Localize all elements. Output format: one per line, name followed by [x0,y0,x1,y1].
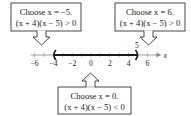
callout-left-line2: (x + 4)(x − 5) > 0 [16,18,76,28]
tick-label: 4 [127,59,131,68]
callout-left-line1: Choose x = −5. [20,7,73,17]
callout-left-arrow-icon [33,31,50,45]
tick-label: 0 [89,59,93,68]
callout-middle-arrow-icon [82,73,99,87]
axis-variable-label: x [163,51,168,60]
number-line-axis: 5−6−4−20246x [31,41,168,68]
tick-label: 6 [146,59,150,68]
callout-middle: Choose x = 0. (x + 4)(x − 5) < 0 [58,73,131,114]
callout-left: Choose x = −5. (x + 4)(x − 5) > 0 [11,3,81,45]
callout-right-line1: Choose x = 6. [126,7,174,17]
tick-label: −4 [49,59,57,68]
callout-right: Choose x = 6. (x + 4)(x − 5) > 0 [115,3,185,45]
callout-middle-line1: Choose x = 0. [71,91,119,101]
interval-endpoint-label: 5 [135,41,139,50]
callout-right-arrow-icon [140,31,157,45]
tick-label: 2 [108,59,112,68]
callout-middle-line2: (x + 4)(x − 5) < 0 [64,102,124,112]
tick-label: −2 [68,59,76,68]
number-line-diagram: Choose x = −5. (x + 4)(x − 5) > 0 Choose… [0,0,191,116]
callout-right-line2: (x + 4)(x − 5) > 0 [120,18,180,28]
tick-label: −6 [31,59,39,68]
axis-arrow-icon [156,53,161,57]
